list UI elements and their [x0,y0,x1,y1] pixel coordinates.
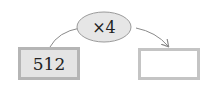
operation-label: ×4 [76,13,132,41]
output-box[interactable] [138,48,200,80]
input-value: 512 [33,54,65,74]
connector-right-arrow [136,28,168,46]
input-box: 512 [18,47,80,80]
